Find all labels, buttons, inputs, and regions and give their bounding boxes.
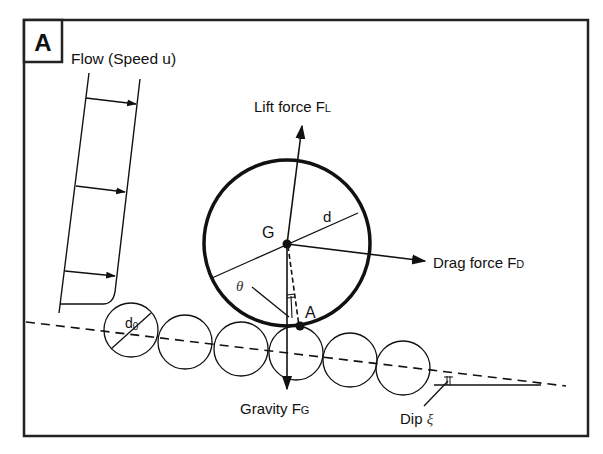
theta-pointer [252,287,289,317]
flow-label: Flow (Speed u) [71,50,176,67]
panel-frame [24,20,588,436]
drag-force-arrow [287,244,425,261]
center-point-g [283,240,292,249]
theta-angle-mark [287,294,295,318]
bed-dashed-line [26,322,566,386]
grain-diameter-label: d [323,208,331,225]
theta-label: θ [236,278,244,294]
panel-label: A [34,29,51,56]
contact-point-a [296,322,305,331]
force-diagram: A Flow (Speed u) d0 d G Lift force FL Dr… [0,0,603,454]
contact-label: A [305,304,316,321]
lift-force-arrow [287,126,302,244]
bed-beads [104,303,430,395]
lift-force-label: Lift force FL [254,98,331,115]
dip-label: Dip ξ [400,410,434,427]
center-label: G [262,224,274,241]
bead-diameter-label: d0 [125,315,139,332]
flow-profile [59,73,140,313]
drag-force-label: Drag force FD [433,254,524,271]
pivot-dashed-line [288,246,299,326]
gravity-label: Gravity FG [240,400,309,417]
